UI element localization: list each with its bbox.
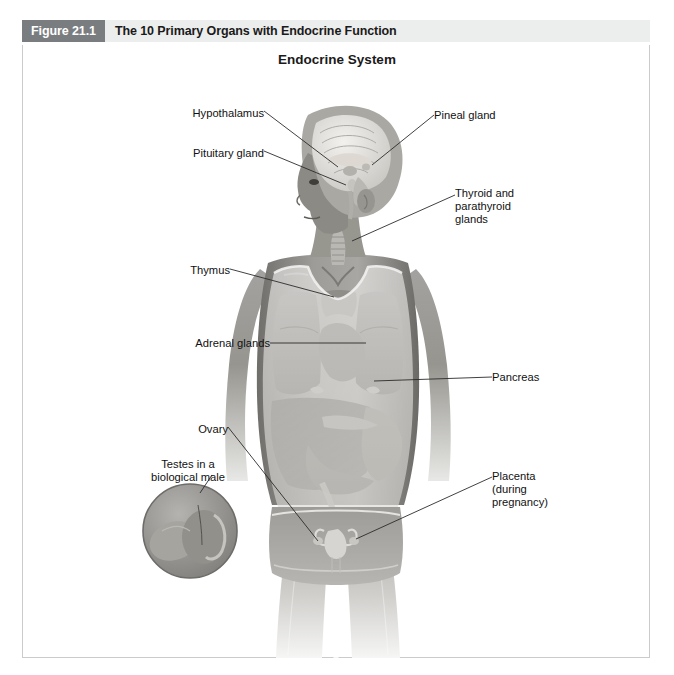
label-thyroid-parathyroid-glands: Thyroid and parathyroid glands <box>455 187 545 227</box>
figure-title: The 10 Primary Organs with Endocrine Fun… <box>105 20 397 42</box>
illustration-stage <box>22 45 650 658</box>
head <box>297 106 403 234</box>
figure-number-badge: Figure 21.1 <box>22 20 105 42</box>
tank-top <box>263 266 413 507</box>
eye <box>309 179 319 185</box>
figure-root: Figure 21.1 The 10 Primary Organs with E… <box>0 0 674 675</box>
nose <box>297 195 300 205</box>
label-thymus: Thymus <box>180 264 230 277</box>
pineal-organ <box>362 164 370 171</box>
ear <box>357 189 375 213</box>
label-pancreas: Pancreas <box>492 371 562 384</box>
figure-header: Figure 21.1 The 10 Primary Organs with E… <box>22 20 650 42</box>
brainstem <box>350 191 352 219</box>
label-ovary: Ovary <box>180 423 228 436</box>
label-adrenal-glands: Adrenal glands <box>174 337 270 350</box>
testes-inset <box>141 482 239 580</box>
label-placenta: Placenta (during pregnancy) <box>492 470 572 510</box>
endocrine-system-illustration <box>22 45 650 658</box>
label-hypothalamus: Hypothalamus <box>178 107 264 120</box>
label-pineal-gland: Pineal gland <box>434 109 530 122</box>
hypothalamus-organ <box>343 166 357 176</box>
label-testes: Testes in a biological male <box>133 458 243 484</box>
label-pituitary-gland: Pituitary gland <box>166 147 264 160</box>
